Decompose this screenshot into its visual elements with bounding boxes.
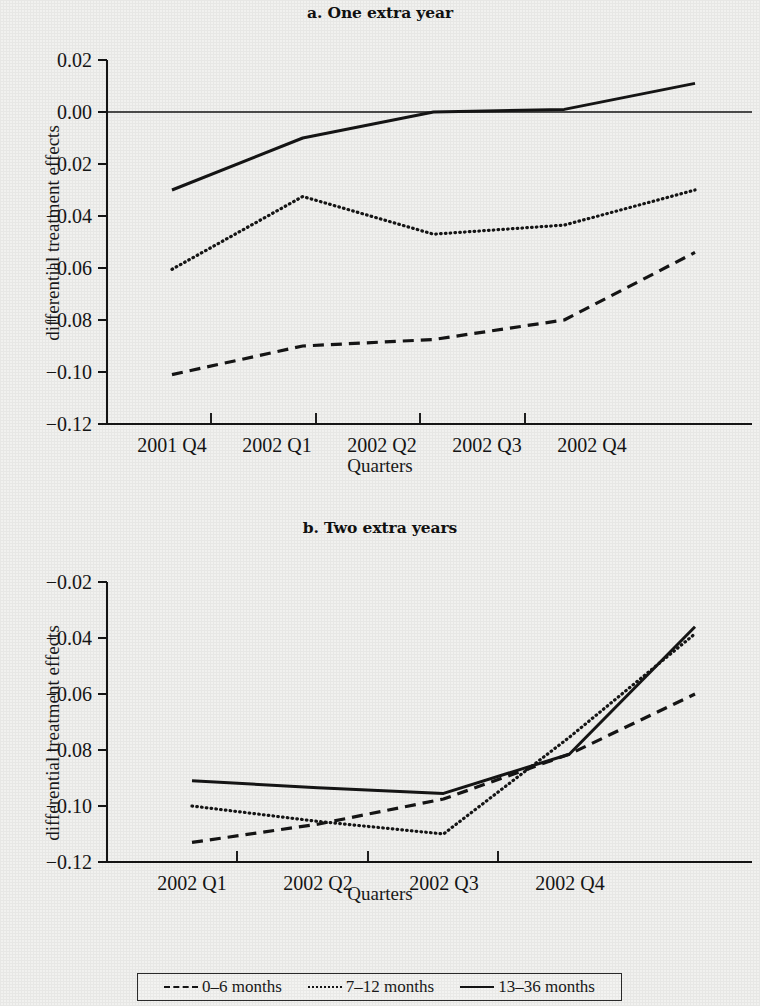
panel-b-ytick-label: −0.06 — [46, 683, 92, 705]
panel-a-plot: 0.020.00−0.02−0.04−0.06−0.08−0.10−0.1220… — [0, 0, 760, 500]
legend-solid-line-icon — [460, 985, 494, 989]
panel-b-ytick-label: −0.08 — [46, 739, 92, 761]
panel-a-ytick-label: −0.02 — [46, 153, 92, 175]
panel-b-plot: −0.02−0.04−0.06−0.08−0.10−0.122002 Q1200… — [0, 500, 760, 920]
panel-one-extra-year: a. One extra year differential treatment… — [0, 0, 760, 500]
panel-b-ytick-label: −0.04 — [46, 627, 92, 649]
panel-a-x-axis-label: Quarters — [0, 455, 760, 477]
panel-b-ytick-label: −0.02 — [46, 571, 92, 593]
legend-label-1: 7–12 months — [346, 977, 434, 997]
legend-item-2: 13–36 months — [460, 977, 595, 997]
panel-a-xtick-label: 2002 Q2 — [347, 434, 416, 456]
panel-a-ytick-label: −0.04 — [46, 205, 92, 227]
panel-a-series-solid — [172, 83, 695, 190]
panel-a-series-dotted — [172, 190, 695, 269]
legend-label-2: 13–36 months — [498, 977, 595, 997]
panel-a-xtick-label: 2002 Q4 — [557, 434, 626, 456]
panel-a-ytick-label: −0.12 — [46, 413, 92, 435]
legend-label-0: 0–6 months — [202, 977, 282, 997]
panel-b-series-dotted — [192, 634, 695, 834]
legend-item-0: 0–6 months — [164, 977, 282, 997]
legend-dotted-line-icon — [308, 985, 342, 989]
panel-a-ytick-label: 0.02 — [57, 49, 92, 71]
legend-item-1: 7–12 months — [308, 977, 434, 997]
panel-a-series-dashed — [172, 252, 695, 374]
panel-a-xtick-label: 2002 Q1 — [242, 434, 311, 456]
panel-b-series-solid — [192, 627, 695, 794]
figure-page: a. One extra year differential treatment… — [0, 0, 760, 1006]
panel-a-ytick-label: 0.00 — [57, 101, 92, 123]
panel-b-ytick-label: −0.10 — [46, 795, 92, 817]
panel-a-ytick-label: −0.10 — [46, 361, 92, 383]
panel-b-ytick-label: −0.12 — [46, 851, 92, 873]
legend: 0–6 months 7–12 months 13–36 months — [137, 973, 622, 1001]
panel-b-series-dashed — [192, 694, 695, 842]
panel-a-ytick-label: −0.08 — [46, 309, 92, 331]
panel-b-x-axis-label: Quarters — [0, 883, 760, 905]
panel-a-ytick-label: −0.06 — [46, 257, 92, 279]
panel-a-xtick-label: 2002 Q3 — [452, 434, 521, 456]
panel-a-xtick-label: 2001 Q4 — [137, 434, 206, 456]
legend-dashed-line-icon — [164, 985, 198, 989]
panel-two-extra-years: b. Two extra years differential treatmen… — [0, 500, 760, 920]
